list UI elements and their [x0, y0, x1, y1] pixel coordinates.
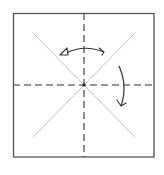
origami-diagram	[0, 0, 164, 175]
center-point	[82, 83, 85, 86]
diagram-canvas	[0, 0, 164, 175]
